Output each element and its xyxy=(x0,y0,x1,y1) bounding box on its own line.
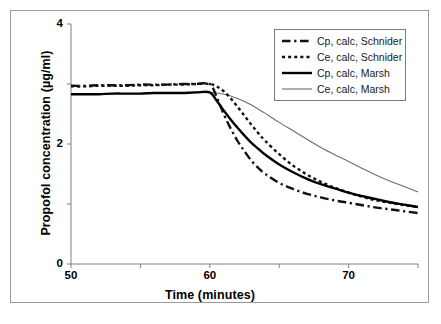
x-tick-label: 50 xyxy=(56,269,86,281)
y-tick-label: 2 xyxy=(41,137,63,149)
x-tick-label: 70 xyxy=(334,269,364,281)
series-line xyxy=(71,92,418,192)
legend-label: Cp, calc, Marsh xyxy=(317,67,390,79)
legend-swatch xyxy=(280,67,314,79)
y-tick-label: 4 xyxy=(41,17,63,29)
series-line xyxy=(71,92,418,207)
y-tick-label: 0 xyxy=(41,257,63,269)
x-axis-title: Time (minutes) xyxy=(120,288,300,302)
series-line xyxy=(71,84,418,207)
series-line xyxy=(71,83,418,213)
legend-item[interactable]: Cp, calc, Schnider xyxy=(275,33,405,49)
legend-item[interactable]: Ce, calc, Marsh xyxy=(275,81,405,97)
chart-figure: Propofol concentration (µg/ml) Time (min… xyxy=(0,0,441,324)
legend-item[interactable]: Ce, calc, Schnider xyxy=(275,49,405,65)
legend-swatch xyxy=(280,35,314,47)
legend-label: Ce, calc, Marsh xyxy=(317,83,390,95)
legend-label: Cp, calc, Schnider xyxy=(317,35,402,47)
legend-swatch xyxy=(280,51,314,63)
legend-swatch xyxy=(280,83,314,95)
legend-label: Ce, calc, Schnider xyxy=(317,51,402,63)
x-tick-label: 60 xyxy=(195,269,225,281)
legend-item[interactable]: Cp, calc, Marsh xyxy=(275,65,405,81)
chart-legend: Cp, calc, SchniderCe, calc, SchniderCp, … xyxy=(274,29,406,101)
data-series xyxy=(71,83,418,213)
